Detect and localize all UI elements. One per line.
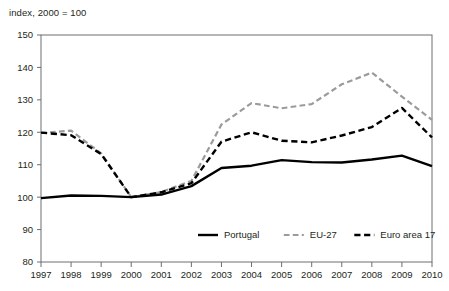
x-axis-tick-label: 2010 <box>421 269 442 280</box>
x-axis-tick-label: 2006 <box>301 269 322 280</box>
y-axis-tick-label: 90 <box>22 224 33 235</box>
x-axis: 1997199819992000200120022003200420052006… <box>30 262 442 280</box>
x-axis-tick-label: 2000 <box>121 269 142 280</box>
chart-legend: PortugalEU-27Euro area 17 <box>198 229 435 240</box>
legend-item-euro-area-17[interactable]: Euro area 17 <box>354 229 435 240</box>
x-axis-tick-label: 1998 <box>61 269 82 280</box>
legend-item-portugal[interactable]: Portugal <box>198 229 259 240</box>
x-axis-tick-label: 1999 <box>91 269 112 280</box>
y-axis-tick-label: 150 <box>17 29 33 40</box>
chart-container: index, 2000 = 100 8090100110120130140150… <box>0 0 449 291</box>
line-chart-plot: 8090100110120130140150199719981999200020… <box>0 0 449 291</box>
series-line-portugal <box>41 156 432 198</box>
x-axis-tick-label: 2008 <box>361 269 382 280</box>
series-line-euro-area-17 <box>41 108 432 197</box>
x-axis-tick-label: 2001 <box>151 269 172 280</box>
series-line-eu-27 <box>41 73 432 198</box>
x-axis-tick-label: 2007 <box>331 269 352 280</box>
legend-label: EU-27 <box>310 229 337 240</box>
y-axis-tick-label: 110 <box>18 159 33 170</box>
x-axis-tick-label: 2004 <box>241 269 262 280</box>
y-axis-tick-label: 130 <box>17 94 33 105</box>
x-axis-tick-label: 1997 <box>30 269 51 280</box>
y-axis-tick-label: 80 <box>22 256 33 267</box>
legend-label: Portugal <box>224 229 259 240</box>
legend-label: Euro area 17 <box>380 229 435 240</box>
series-group <box>41 73 432 198</box>
x-axis-tick-label: 2009 <box>391 269 412 280</box>
x-axis-tick-label: 2002 <box>181 269 202 280</box>
y-axis-tick-label: 140 <box>17 62 33 73</box>
y-axis: 8090100110120130140150 <box>17 29 41 267</box>
legend-item-eu-27[interactable]: EU-27 <box>284 229 337 240</box>
x-axis-tick-label: 2005 <box>271 269 292 280</box>
plot-frame <box>41 35 432 262</box>
x-axis-tick-label: 2003 <box>211 269 232 280</box>
y-axis-tick-label: 120 <box>17 127 33 138</box>
y-axis-tick-label: 100 <box>17 192 33 203</box>
